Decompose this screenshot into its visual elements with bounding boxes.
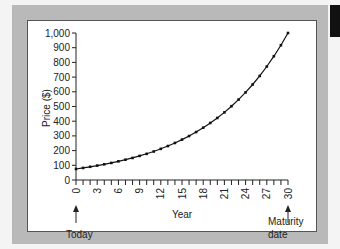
y-tick-label: 100	[53, 160, 70, 171]
data-point	[181, 138, 184, 141]
data-point	[287, 32, 290, 35]
data-point	[195, 131, 198, 134]
data-point	[167, 145, 170, 148]
data-point	[174, 142, 177, 145]
data-point	[160, 148, 163, 151]
data-point	[237, 98, 240, 101]
data-point	[251, 83, 254, 86]
data-point	[96, 164, 99, 167]
x-tick-label: 15	[177, 188, 188, 200]
data-point	[124, 158, 127, 161]
data-point	[82, 167, 85, 170]
maturity-label-line1: Maturity	[268, 216, 304, 227]
x-tick-label: 9	[134, 188, 145, 194]
data-point	[209, 122, 212, 125]
x-tick-label: 18	[198, 188, 209, 200]
x-tick-label: 3	[92, 188, 103, 194]
x-tick-label: 12	[155, 188, 166, 200]
y-tick-label: 200	[53, 145, 70, 156]
y-tick-label: 800	[53, 57, 70, 68]
x-axis-label: Year	[172, 209, 193, 220]
data-point	[152, 150, 155, 153]
data-point	[75, 168, 78, 171]
maturity-annotation: Maturity date	[268, 205, 304, 240]
y-tick-label: 700	[53, 72, 70, 83]
data-point	[230, 105, 233, 108]
y-tick-label: 0	[64, 175, 70, 186]
y-tick-label: 900	[53, 42, 70, 53]
x-axis: 036912151821242730	[71, 180, 294, 199]
x-tick-label: 27	[261, 188, 272, 200]
data-point	[202, 126, 205, 129]
x-tick-label: 30	[283, 188, 294, 200]
y-tick-label: 400	[53, 116, 70, 127]
y-tick-label: 600	[53, 86, 70, 97]
x-tick-label: 21	[219, 188, 230, 200]
data-point	[258, 75, 261, 78]
x-tick-label: 24	[240, 188, 251, 200]
data-point	[103, 163, 106, 166]
data-point	[266, 65, 269, 68]
data-point	[131, 157, 134, 160]
y-axis-label: Price ($)	[41, 89, 52, 127]
data-point	[89, 165, 92, 168]
y-tick-label: 500	[53, 101, 70, 112]
maturity-label-line2: date	[268, 229, 288, 240]
today-annotation: Today	[66, 205, 93, 240]
x-tick-label: 6	[113, 188, 124, 194]
y-tick-label: 1,000	[45, 28, 70, 39]
y-tick-label: 300	[53, 130, 70, 141]
series-line	[76, 33, 288, 169]
data-point	[110, 162, 113, 165]
data-series	[75, 32, 290, 171]
data-point	[117, 160, 120, 163]
x-tick-label: 0	[71, 188, 82, 194]
data-point	[280, 44, 283, 47]
data-point	[188, 135, 191, 138]
price-chart: 01002003004005006007008009001,000 036912…	[0, 0, 340, 249]
today-label: Today	[66, 229, 93, 240]
data-point	[138, 155, 141, 158]
data-point	[223, 111, 226, 114]
data-point	[273, 55, 276, 58]
data-point	[244, 91, 247, 94]
data-point	[216, 117, 219, 120]
data-point	[145, 153, 148, 156]
